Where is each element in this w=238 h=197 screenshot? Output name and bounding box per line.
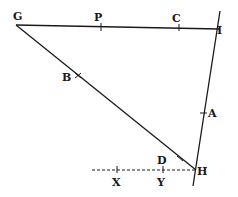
segment-gi [16,25,219,29]
label-g: G [13,10,22,23]
label-d: D [157,154,167,167]
label-p: P [94,11,102,24]
label-c: C [172,12,181,25]
label-h: H [197,165,207,178]
label-b: B [62,71,71,84]
geometry-diagram: G P C I B A D H X Y [0,0,238,197]
label-y: Y [156,176,165,189]
segment-gh [16,25,196,170]
label-x: X [112,176,121,189]
label-i: I [217,24,222,37]
segment-ih [193,11,220,186]
label-a: A [207,107,217,120]
